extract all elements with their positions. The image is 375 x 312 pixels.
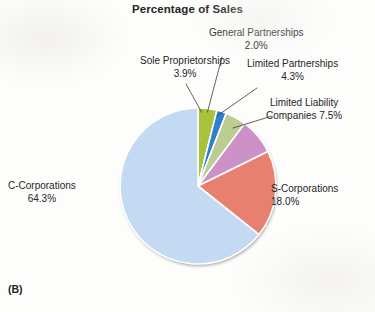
slice-label-general-partnerships-name: General Partnerships [209, 27, 304, 38]
slice-label-c-corporations: C-Corporations 64.3% [8, 180, 76, 205]
slice-label-s-corporations: S-Corporations 18.0% [271, 183, 338, 208]
slice-label-s-corporations-percent: 18.0% [271, 196, 338, 209]
slice-label-sole-proprietorships: Sole Proprietorships 3.9% [140, 55, 230, 80]
slice-label-sole-proprietorships-name: Sole Proprietorships [140, 55, 230, 66]
pie-slices-group: Sole Proprietorships 3.9%General Partner… [120, 108, 276, 264]
slice-label-sole-proprietorships-percent: 3.9% [140, 68, 230, 81]
slice-label-limited-liability-companies-line1: Limited Liability [270, 97, 338, 108]
slice-label-limited-liability-companies: Limited Liability Companies 7.5% [266, 97, 342, 122]
slice-label-limited-partnerships: Limited Partnerships 4.3% [247, 58, 338, 83]
slice-label-c-corporations-name: C-Corporations [8, 180, 76, 191]
slice-label-general-partnerships: General Partnerships 2.0% [209, 27, 304, 52]
chart-title: Percentage of Sales [0, 3, 375, 15]
panel-label: (B) [8, 283, 23, 295]
slice-label-limited-liability-companies-line2: Companies 7.5% [266, 110, 342, 123]
slice-label-limited-partnerships-name: Limited Partnerships [247, 58, 338, 69]
pie-chart-canvas: Sole Proprietorships 3.9%General Partner… [0, 0, 375, 312]
leader-line-limited-partnerships [217, 88, 257, 116]
pie-chart-figure: Percentage of Sales Sole Proprietorships… [0, 0, 375, 312]
slice-label-c-corporations-percent: 64.3% [8, 193, 76, 206]
slice-label-s-corporations-name: S-Corporations [271, 183, 338, 194]
slice-label-general-partnerships-percent: 2.0% [209, 40, 304, 53]
slice-label-limited-partnerships-percent: 4.3% [247, 71, 338, 84]
